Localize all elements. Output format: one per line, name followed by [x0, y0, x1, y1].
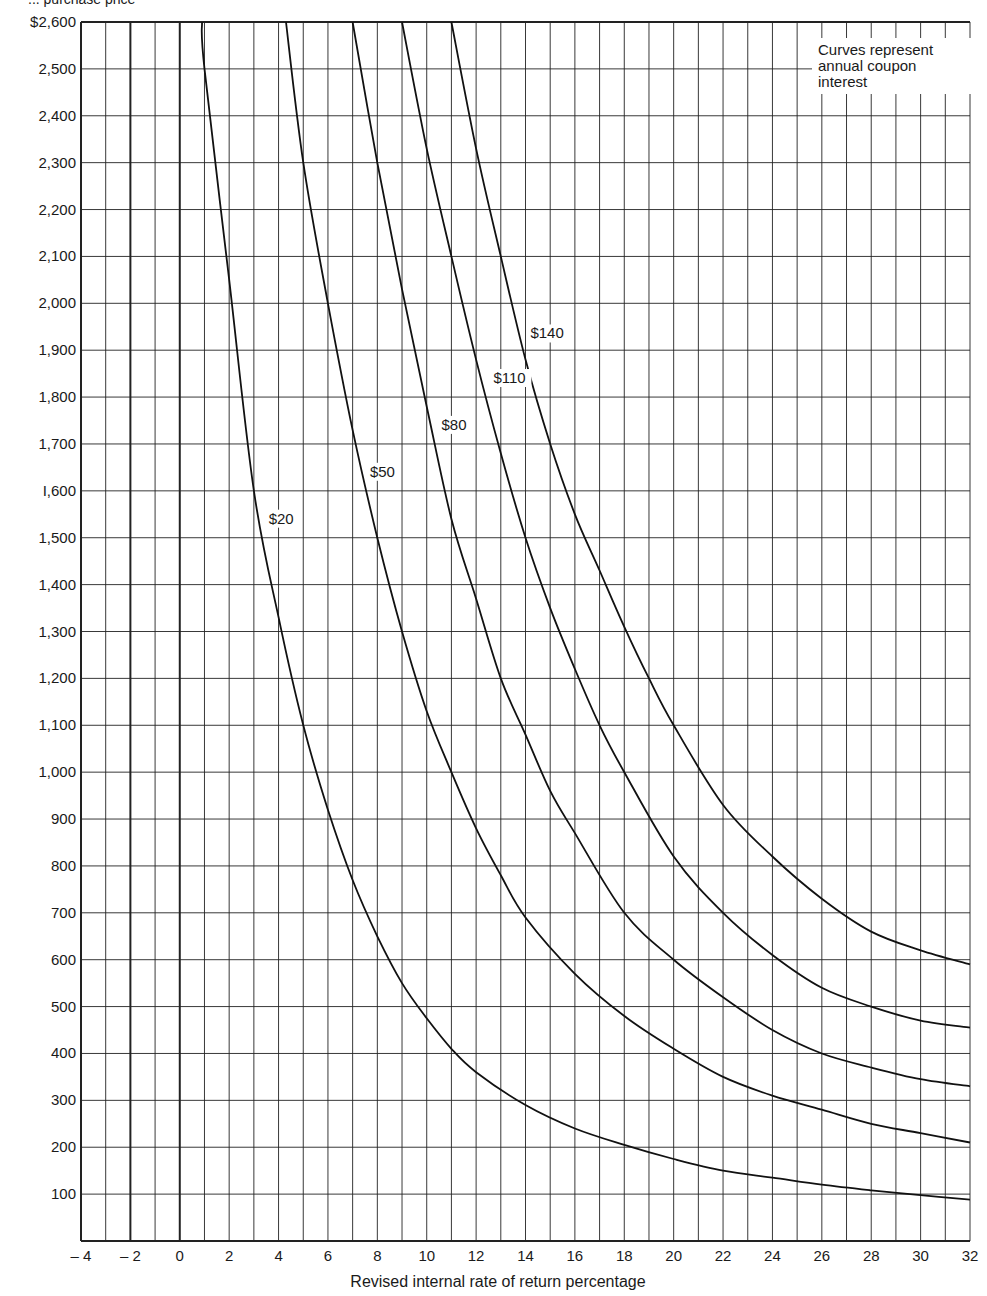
x-tick-label: 28: [863, 1247, 880, 1264]
curves: [202, 22, 970, 1200]
y-tick-label: 1,400: [38, 576, 76, 593]
y-tick-label: 500: [51, 998, 76, 1015]
y-tick-label: 1,200: [38, 669, 76, 686]
curve-coupon-140: [451, 22, 970, 964]
x-tick-label: 12: [468, 1247, 485, 1264]
curve-labels: $20$50$80$110$140: [267, 324, 569, 527]
x-tick-label: – 4: [71, 1247, 92, 1264]
curve-coupon-50: [286, 22, 970, 1143]
y-tick-label: 1,000: [38, 763, 76, 780]
y-tick-label: $2,600: [30, 13, 76, 30]
curve-label-coupon-80: $80: [442, 416, 467, 433]
y-tick-label: 2,100: [38, 247, 76, 264]
x-tick-label: 18: [616, 1247, 633, 1264]
x-tick-label: 24: [764, 1247, 781, 1264]
curve-label-coupon-20: $20: [269, 510, 294, 527]
x-tick-label: 4: [274, 1247, 282, 1264]
y-tick-label: 1,300: [38, 623, 76, 640]
annotation-line-2: annual coupon: [818, 58, 978, 74]
y-tick-label: 1,500: [38, 529, 76, 546]
y-tick-labels: 1002003004005006007008009001,0001,1001,2…: [30, 13, 76, 1202]
curve-label-coupon-50: $50: [370, 463, 395, 480]
x-axis-title: Revised internal rate of return percenta…: [350, 1273, 645, 1290]
y-tick-label: 2,200: [38, 201, 76, 218]
x-tick-label: 14: [517, 1247, 534, 1264]
y-tick-label: 1,100: [38, 716, 76, 733]
y-tick-label: 1,700: [38, 435, 76, 452]
y-tick-label: 200: [51, 1138, 76, 1155]
x-tick-label: 30: [912, 1247, 929, 1264]
y-tick-label: 1,900: [38, 341, 76, 358]
y-tick-label: 800: [51, 857, 76, 874]
annotation-line-3: interest: [818, 74, 978, 90]
y-tick-label: 600: [51, 951, 76, 968]
y-tick-label: 900: [51, 810, 76, 827]
y-tick-label: 1,800: [38, 388, 76, 405]
curve-label-coupon-140: $140: [530, 324, 563, 341]
x-tick-label: 0: [176, 1247, 184, 1264]
y-tick-label: I,600: [43, 482, 76, 499]
x-tick-labels: – 4– 202468101214161820222426283032: [71, 1247, 979, 1264]
y-tick-label: 2,400: [38, 107, 76, 124]
y-axis-title: ... purchase price: [28, 0, 136, 7]
annotation-box: Curves represent annual coupon interest: [812, 38, 980, 94]
curve-coupon-20: [202, 22, 970, 1200]
y-tick-label: 300: [51, 1091, 76, 1108]
y-tick-label: 100: [51, 1185, 76, 1202]
y-tick-label: 700: [51, 904, 76, 921]
y-tick-label: 2,300: [38, 154, 76, 171]
x-tick-label: 8: [373, 1247, 381, 1264]
y-tick-label: 2,000: [38, 294, 76, 311]
curve-coupon-80: [353, 22, 970, 1086]
x-tick-label: 20: [665, 1247, 682, 1264]
curve-label-coupon-110: $110: [493, 369, 525, 386]
y-tick-label: 400: [51, 1044, 76, 1061]
x-tick-label: 2: [225, 1247, 233, 1264]
x-tick-label: 32: [962, 1247, 979, 1264]
x-tick-label: 6: [324, 1247, 332, 1264]
annotation-line-1: Curves represent: [818, 42, 978, 58]
x-tick-label: – 2: [120, 1247, 141, 1264]
x-tick-label: 16: [567, 1247, 584, 1264]
x-tick-label: 10: [418, 1247, 435, 1264]
x-tick-label: 26: [813, 1247, 830, 1264]
curve-coupon-110: [402, 22, 970, 1028]
y-tick-label: 2,500: [38, 60, 76, 77]
chart: 1002003004005006007008009001,0001,1001,2…: [0, 0, 987, 1296]
x-tick-label: 22: [715, 1247, 732, 1264]
